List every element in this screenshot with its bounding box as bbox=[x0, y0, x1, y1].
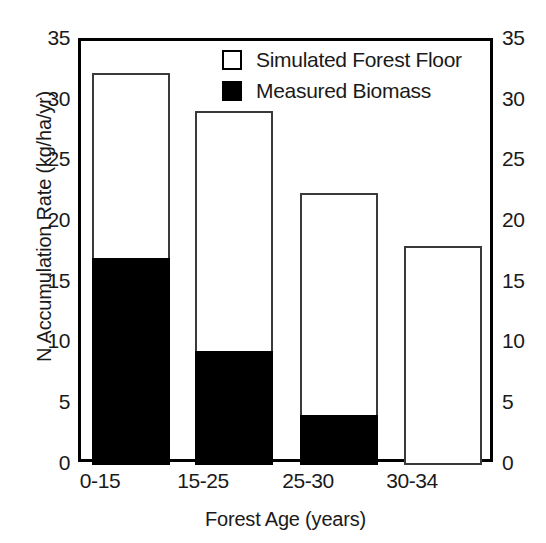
x-tick-label: 15-25 bbox=[153, 470, 253, 492]
x-tick-label: 25-30 bbox=[258, 470, 358, 492]
open-square-icon bbox=[222, 50, 242, 70]
y-tick-label-right: 30 bbox=[502, 88, 546, 109]
bar-simulated-forest-floor[interactable] bbox=[404, 246, 482, 465]
filled-square-icon bbox=[222, 81, 242, 101]
y-tick-label-right: 10 bbox=[502, 330, 546, 351]
y-tick-label-left: 30 bbox=[18, 88, 70, 109]
bar-measured-biomass[interactable] bbox=[300, 415, 378, 465]
bar-measured-biomass[interactable] bbox=[92, 258, 170, 465]
x-tick-label: 0-15 bbox=[50, 470, 150, 492]
legend-label: Simulated Forest Floor bbox=[256, 49, 462, 71]
y-tick-label-left: 20 bbox=[18, 209, 70, 230]
y-tick-label-left: 10 bbox=[18, 330, 70, 351]
legend: Simulated Forest Floor Measured Biomass bbox=[222, 45, 482, 107]
y-tick-label-right: 25 bbox=[502, 148, 546, 169]
bar-group[interactable] bbox=[92, 41, 170, 465]
x-axis-title: Forest Age (years) bbox=[78, 508, 493, 531]
legend-label: Measured Biomass bbox=[256, 80, 431, 102]
y-tick-label-right: 35 bbox=[502, 27, 546, 48]
y-tick-label-left: 25 bbox=[18, 148, 70, 169]
y-tick-label-left: 15 bbox=[18, 270, 70, 291]
y-tick-label-left: 5 bbox=[18, 391, 70, 412]
plot-area: Simulated Forest Floor Measured Biomass bbox=[78, 38, 493, 462]
legend-item-simulated-forest-floor[interactable]: Simulated Forest Floor bbox=[222, 45, 482, 74]
legend-item-measured-biomass[interactable]: Measured Biomass bbox=[222, 76, 482, 105]
y-tick-label-left: 35 bbox=[18, 27, 70, 48]
y-tick-label-right: 0 bbox=[502, 452, 546, 473]
y-tick-label-right: 5 bbox=[502, 391, 546, 412]
bar-chart-figure: N Accumulation Rate (kg/ha/yr) 35 30 25 … bbox=[0, 0, 546, 543]
y-tick-label-right: 15 bbox=[502, 270, 546, 291]
y-tick-label-right: 20 bbox=[502, 209, 546, 230]
x-tick-label: 30-34 bbox=[362, 470, 462, 492]
bar-measured-biomass[interactable] bbox=[195, 351, 273, 465]
